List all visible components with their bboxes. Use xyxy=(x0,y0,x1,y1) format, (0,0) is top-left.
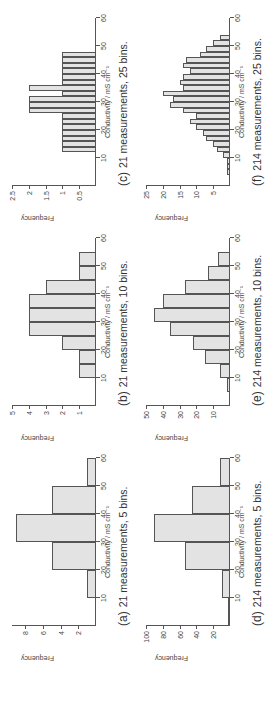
y-tick xyxy=(46,406,47,409)
plot-area: 10203040506020406080100 xyxy=(146,458,230,626)
plot-area: 102030405060510152025 xyxy=(146,18,230,186)
histogram-bar xyxy=(29,322,96,336)
y-tick-label: 1 xyxy=(59,191,66,211)
y-tick-label: 30 xyxy=(176,411,183,431)
panel-tag: (c) xyxy=(116,172,130,186)
histogram-bar xyxy=(203,130,230,136)
histogram-bar xyxy=(62,63,96,69)
y-axis xyxy=(146,405,230,406)
x-axis-label: Conductivity / mS cm⁻¹ xyxy=(104,458,112,626)
panel-tag: (d) xyxy=(250,611,264,626)
y-tick xyxy=(163,626,164,629)
histogram-bar xyxy=(190,119,230,125)
y-tick-label: 50 xyxy=(143,411,150,431)
histogram-bar xyxy=(200,52,230,58)
histogram-bar xyxy=(62,113,96,119)
histogram-bar xyxy=(79,364,96,378)
caption-text: 214 measurements, 25 bins. xyxy=(251,38,263,171)
y-tick xyxy=(213,626,214,629)
plot-area: 1020304050600.511.522.5 xyxy=(12,18,96,186)
y-tick-label: 40 xyxy=(159,411,166,431)
histogram-bar xyxy=(192,486,230,514)
y-tick xyxy=(79,186,80,189)
panel-tag: (a) xyxy=(116,611,130,626)
y-tick-label: 10 xyxy=(210,411,217,431)
y-tick-label: 2 xyxy=(59,411,66,431)
histogram-bar xyxy=(16,514,96,542)
panel-tag: (b) xyxy=(116,391,130,406)
y-axis-label: Frequency xyxy=(155,435,188,442)
histogram-bar xyxy=(62,119,96,125)
caption-text: 21 measurements, 5 bins. xyxy=(117,487,129,608)
y-tick-label: 2.5 xyxy=(9,191,16,211)
histogram-bar xyxy=(87,570,96,598)
plot-area: 1020304050602468 xyxy=(12,458,96,626)
y-axis xyxy=(12,405,96,406)
y-tick-label: 1.5 xyxy=(42,191,49,211)
histogram-bar xyxy=(154,308,230,322)
y-axis xyxy=(12,185,96,186)
y-tick-label: 2 xyxy=(25,191,32,211)
y-tick-label: 8 xyxy=(22,631,29,651)
histogram-bar xyxy=(220,458,230,486)
y-tick xyxy=(196,186,197,189)
y-axis-label: Frequency xyxy=(21,435,54,442)
y-tick xyxy=(43,626,44,629)
panel-c: 1020304050600.511.522.5 Frequency Conduc… xyxy=(4,0,141,220)
y-tick-label: 5 xyxy=(9,411,16,431)
histogram-bar xyxy=(87,458,96,486)
panel-f: 102030405060510152025 Frequency Conducti… xyxy=(138,0,275,220)
histogram-bar xyxy=(154,514,230,542)
y-tick xyxy=(146,186,147,189)
y-tick xyxy=(180,186,181,189)
histogram-bar xyxy=(223,152,230,158)
histogram-bar xyxy=(222,570,230,598)
panel-caption: (f)214 measurements, 25 bins. xyxy=(250,38,264,186)
caption-text: 21 measurements, 25 bins. xyxy=(117,41,129,168)
x-axis-label: Conductivity / mS cm⁻¹ xyxy=(238,238,246,406)
y-tick xyxy=(46,186,47,189)
y-tick-label: 60 xyxy=(176,631,183,651)
y-tick-label: 25 xyxy=(143,191,150,211)
histogram-bar xyxy=(62,57,96,63)
y-tick xyxy=(180,626,181,629)
y-tick xyxy=(12,406,13,409)
y-axis-label: Frequency xyxy=(21,215,54,222)
histogram-bar xyxy=(205,350,230,364)
histogram-bar xyxy=(29,294,96,308)
panel-caption: (d)214 measurements, 5 bins. xyxy=(250,481,264,626)
y-tick-label: 40 xyxy=(193,631,200,651)
y-axis-label: Frequency xyxy=(155,215,188,222)
y-tick-label: 20 xyxy=(210,631,217,651)
histogram-bar xyxy=(52,486,96,514)
panel-caption: (c)21 measurements, 25 bins. xyxy=(116,41,130,186)
histogram-bar xyxy=(227,169,230,175)
histogram-bar xyxy=(79,350,96,364)
y-tick-label: 80 xyxy=(159,631,166,651)
histogram-bar xyxy=(217,147,230,153)
histogram-bar xyxy=(163,91,230,97)
y-tick xyxy=(196,626,197,629)
x-axis-label: Conductivity / mS cm⁻¹ xyxy=(104,238,112,406)
y-tick xyxy=(196,406,197,409)
y-tick xyxy=(79,406,80,409)
panel-b: 10203040506012345 Frequency Conductivity… xyxy=(4,204,141,440)
panel-d: 10203040506020406080100 Frequency Conduc… xyxy=(138,424,275,660)
caption-text: 214 measurements, 5 bins. xyxy=(251,481,263,608)
histogram-bar xyxy=(227,164,230,170)
y-tick-label: 4 xyxy=(25,411,32,431)
histogram-bar xyxy=(227,158,230,164)
histogram-bar xyxy=(228,598,230,626)
histogram-bar xyxy=(29,108,96,114)
y-tick-label: 1 xyxy=(76,411,83,431)
histogram-bar xyxy=(29,308,96,322)
y-tick xyxy=(62,186,63,189)
histogram-bar xyxy=(173,96,230,102)
y-tick-label: 2 xyxy=(75,631,82,651)
histogram-bar xyxy=(52,542,96,570)
y-axis xyxy=(146,185,230,186)
y-tick xyxy=(163,406,164,409)
y-tick xyxy=(146,626,147,629)
y-tick xyxy=(213,406,214,409)
histogram-bar xyxy=(213,40,230,46)
